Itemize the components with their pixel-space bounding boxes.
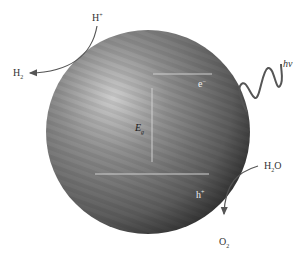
oxygen-label: O2 <box>219 237 229 249</box>
electron-label: e− <box>198 78 206 89</box>
hydrogen-label: H2 <box>13 68 23 80</box>
diagram-canvas <box>0 0 301 257</box>
proton-label: H+ <box>92 12 103 23</box>
hole-label: h+ <box>196 189 204 200</box>
water-label: H2O <box>264 161 281 173</box>
band-gap-label: Eg <box>135 123 144 135</box>
photon-energy-label: hv <box>283 59 292 69</box>
